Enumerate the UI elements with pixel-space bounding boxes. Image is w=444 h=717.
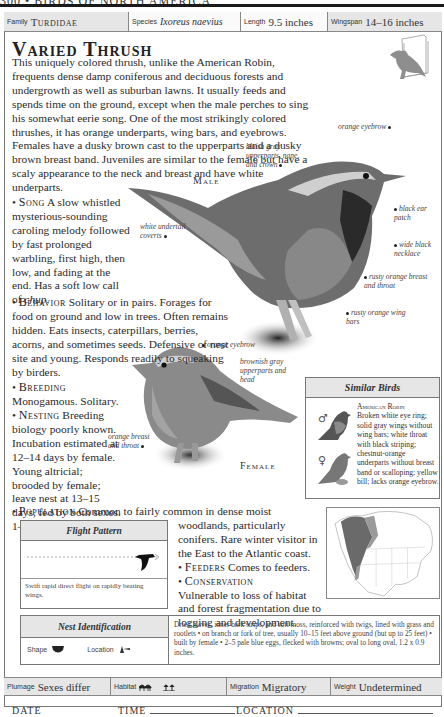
- cup-nest-icon: [51, 645, 65, 654]
- family-value: Turdidae: [31, 16, 78, 28]
- male-label-wide-necklace: wide black necklace: [394, 240, 440, 258]
- species-cell: Species Ixoreus naevius: [129, 12, 241, 31]
- male-label-orange-eyebrow: orange eyebrow: [338, 122, 391, 131]
- breeding-section: • Breeding Monogamous. Solitary.: [12, 381, 130, 409]
- nest-identification-panel: Nest Identification Shape Location Dried…: [20, 615, 440, 665]
- male-label-bluish-gray: bluish gray upperparts, nape, and crown: [246, 142, 306, 169]
- migration-value: Migratory: [262, 681, 307, 693]
- robin-female-icon: [316, 446, 352, 486]
- info-bar: Family Turdidae Species Ixoreus naevius …: [4, 12, 442, 32]
- male-label: Male: [193, 175, 220, 186]
- nest-description: Dried leaves, inner bark strips, and sof…: [169, 616, 439, 664]
- location-field[interactable]: LOCATION: [236, 705, 433, 716]
- conservation-heading: Conservation: [185, 574, 253, 588]
- habitat-scrub-icon: [163, 683, 175, 691]
- species-label: Species: [132, 18, 157, 25]
- flight-pattern-description: Swift rapid direct flight on rapidly bea…: [21, 579, 167, 603]
- male-label-rusty-breast: rusty orange breast and throat: [364, 272, 434, 290]
- song-section: • Song A slow whistled mysterious-soundi…: [12, 196, 130, 307]
- nesting-heading: Nesting: [19, 408, 60, 422]
- similar-birds-heading: Similar Birds: [306, 378, 439, 398]
- behavior-section: • Behavior Solitary or in pairs. Forages…: [12, 296, 232, 379]
- wingspan-cell: Wingspan 14–16 inches: [328, 12, 442, 31]
- length-cell: Length 9.5 inches: [241, 12, 328, 31]
- plumage-label: Plumage: [7, 683, 35, 690]
- male-label-black-ear-patch: black ear patch: [394, 204, 434, 222]
- song-heading: Song: [19, 195, 45, 209]
- nest-identification-heading: Nest Identification: [21, 616, 168, 638]
- bird-book-icon: [388, 33, 432, 85]
- song-text: A slow whistled mysterious-sounding caro…: [12, 196, 130, 305]
- breeding-heading: Breeding: [19, 380, 66, 394]
- time-field[interactable]: TIME: [118, 705, 235, 716]
- wingspan-value: 14–16 inches: [365, 16, 423, 28]
- habitat-forest-icon: [139, 683, 163, 691]
- feeders-text: Comes to feeders.: [228, 561, 310, 573]
- migration-cell: Migration Migratory: [227, 678, 331, 695]
- weight-value: Undetermined: [359, 681, 422, 693]
- bottom-info-bar: Plumage Sexes differ Habitat Migration M…: [4, 677, 442, 696]
- shape-label: Shape: [27, 646, 47, 653]
- population-continued: woodlands, particularly conifers. Rare w…: [178, 519, 324, 630]
- plumage-cell: Plumage Sexes differ: [4, 678, 111, 695]
- flight-pattern-panel: Flight Pattern Swift rapid direct flight…: [20, 520, 168, 609]
- population-section: • Population Common to fairly common in …: [12, 505, 312, 519]
- population-heading: Population: [19, 504, 76, 518]
- migration-label: Migration: [230, 683, 259, 690]
- male-label-rusty-wing-bars: rusty orange wing bars: [346, 308, 406, 326]
- range-map: [326, 507, 440, 599]
- wingspan-label: Wingspan: [331, 18, 362, 25]
- length-label: Length: [244, 18, 265, 25]
- flight-pattern-heading: Flight Pattern: [21, 521, 167, 541]
- population-text: Common to fairly common in dense moist: [78, 505, 271, 517]
- plumage-value: Sexes differ: [38, 681, 91, 693]
- weight-cell: Weight Undetermined: [331, 678, 442, 695]
- similar-bird-description: Broken white eye ring; solid gray wings …: [357, 411, 439, 486]
- family-label: Family: [7, 18, 28, 25]
- similar-bird-name: American Robin: [357, 402, 405, 411]
- female-label-brownish-gray: brownish gray upperparts and head: [240, 357, 296, 384]
- habitat-cell: Habitat: [111, 678, 227, 695]
- behavior-heading: Behavior: [19, 295, 66, 309]
- feeders-heading: Feeders: [185, 560, 225, 574]
- male-label-white-undertail: white undertail coverts: [140, 222, 202, 240]
- robin-male-icon: [316, 406, 352, 442]
- flight-path-icon: [21, 541, 167, 579]
- habitat-label: Habitat: [114, 683, 136, 690]
- family-cell: Family Turdidae: [4, 12, 129, 31]
- weight-label: Weight: [334, 683, 356, 690]
- tree-fork-icon: [118, 644, 132, 654]
- similar-birds-panel: Similar Birds ♂ ♀ American Robin Broken …: [305, 377, 440, 499]
- location-label: Location: [87, 646, 113, 653]
- flight-diagram: [21, 541, 167, 579]
- similar-birds-text: American Robin Broken white eye ring; so…: [357, 402, 439, 487]
- top-rule: [0, 4, 444, 7]
- species-value: Ixoreus naevius: [160, 16, 223, 27]
- female-label: Female: [240, 460, 276, 471]
- date-field[interactable]: DATE: [12, 705, 42, 716]
- breeding-text: Monogamous. Solitary.: [12, 395, 119, 407]
- length-value: 9.5 inches: [268, 16, 313, 28]
